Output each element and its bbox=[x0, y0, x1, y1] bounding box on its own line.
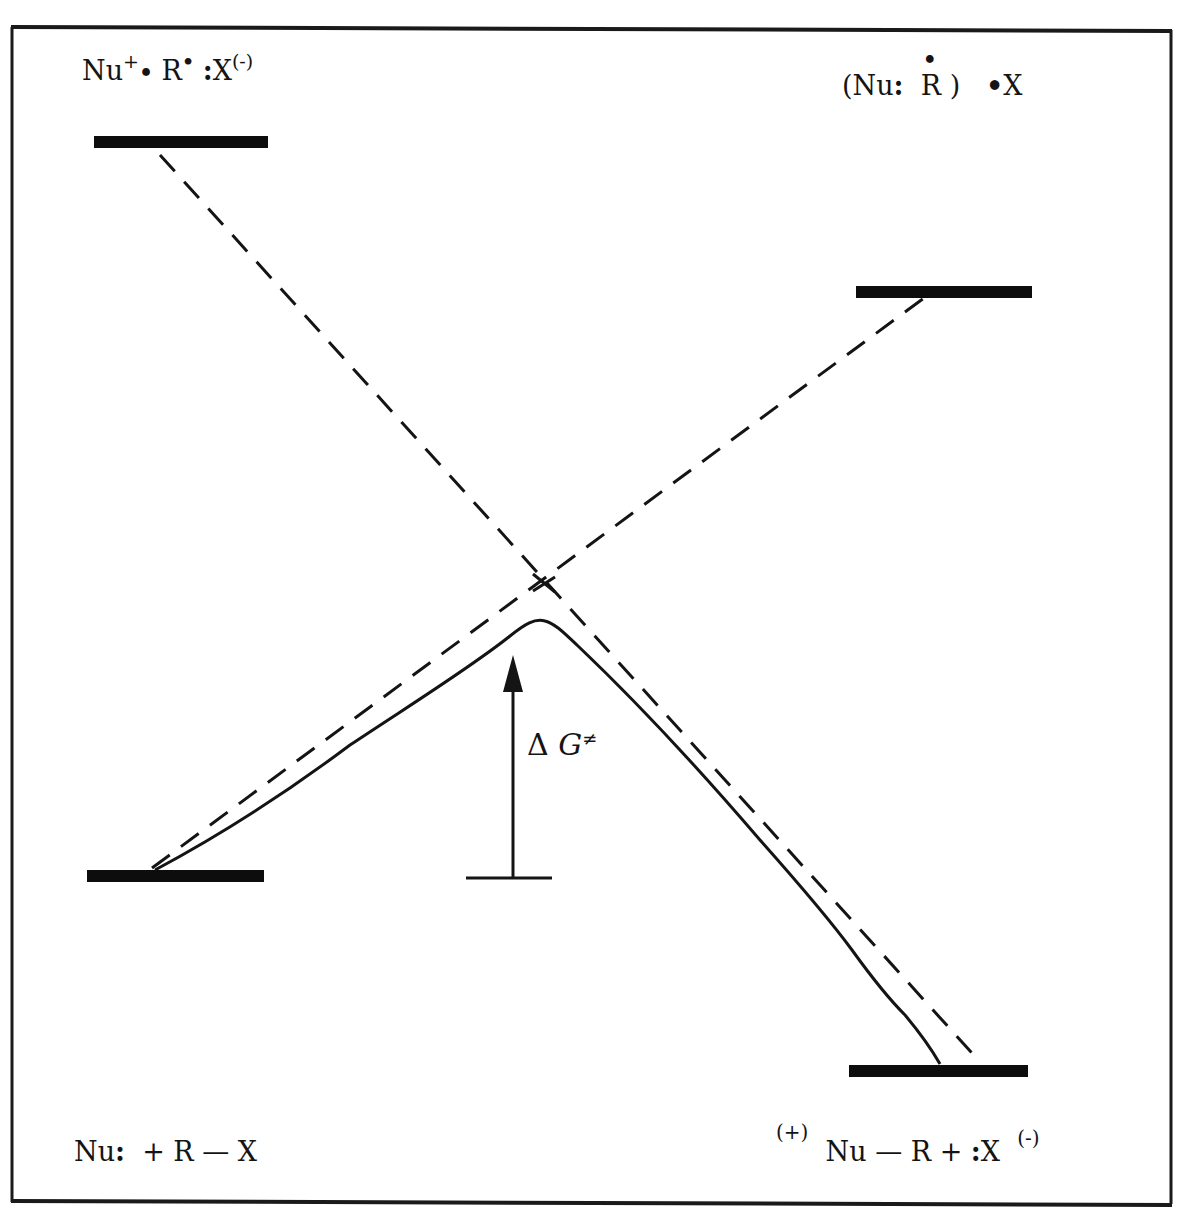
correlation-diagram bbox=[0, 0, 1187, 1212]
species-x: X bbox=[213, 55, 232, 86]
activation-symbol: ≠ bbox=[582, 728, 597, 749]
charge-minus: (-) bbox=[232, 50, 253, 72]
species-x: X bbox=[981, 1136, 1000, 1167]
product-nur: Nu — R + bbox=[826, 1136, 963, 1167]
radical-dot: • bbox=[139, 59, 153, 85]
ground-state-curve bbox=[155, 620, 940, 1064]
reactant-rx: + R — X bbox=[142, 1136, 257, 1167]
electron-pair: : bbox=[203, 55, 213, 86]
electron-pair: : bbox=[115, 1136, 125, 1167]
species-r: R bbox=[921, 70, 941, 101]
diagram-stage: Nu+• R• :X(-) (Nu: •R ) •X Nu: + R — X (… bbox=[0, 0, 1187, 1212]
species-r: R bbox=[162, 55, 182, 86]
charge-plus: (+) bbox=[776, 1120, 808, 1144]
frame-border bbox=[11, 27, 1172, 1205]
paren-close: ) bbox=[950, 70, 961, 101]
radical-dot: • bbox=[182, 50, 194, 72]
charge-plus: + bbox=[123, 50, 139, 72]
species-nu: Nu bbox=[82, 55, 123, 86]
electron-pair: : bbox=[894, 70, 904, 101]
label-top-left: Nu+• R• :X(-) bbox=[82, 52, 253, 84]
label-top-right: (Nu: •R ) •X bbox=[842, 72, 1022, 99]
radical-dot: • bbox=[986, 70, 1003, 101]
level-product-excited bbox=[856, 286, 1032, 298]
species-nu: Nu bbox=[74, 1136, 115, 1167]
gibbs-g: G bbox=[558, 727, 582, 762]
electron-pair: : bbox=[971, 1136, 981, 1167]
delta-symbol: Δ bbox=[527, 727, 549, 762]
species-nu: (Nu bbox=[842, 70, 894, 101]
charge-minus: (-) bbox=[1017, 1126, 1039, 1150]
label-bottom-right: (+) Nu — R + :X (-) bbox=[776, 1124, 1040, 1151]
barrier-label: Δ G≠ bbox=[527, 730, 597, 760]
barrier-arrow bbox=[466, 655, 552, 878]
radical-dot: • bbox=[923, 48, 937, 70]
level-product-ground bbox=[849, 1065, 1028, 1077]
label-bottom-left: Nu: + R — X bbox=[74, 1138, 257, 1165]
species-x: X bbox=[1003, 70, 1022, 101]
level-reactant-excited bbox=[94, 136, 268, 148]
level-reactant-ground bbox=[87, 870, 264, 882]
